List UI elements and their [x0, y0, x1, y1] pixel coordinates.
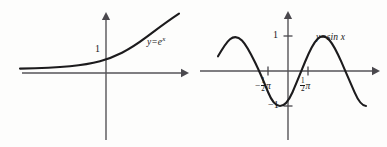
sine-curve-label: y=sin x	[316, 33, 345, 43]
sine-graph-svg	[194, 0, 387, 147]
sine-x-label-positive-half-pi: 12π	[300, 78, 310, 94]
exponential-curve-label: y=ex	[147, 36, 165, 48]
sine-x-label-negative-half-pi: −12π	[255, 78, 271, 94]
one-half-fraction: 12	[261, 78, 266, 94]
sine-curve-label-text: y=sin x	[316, 32, 345, 42]
exponential-curve-label-text: y=e	[147, 37, 162, 47]
exponential-y-tick-label: 1	[95, 44, 100, 54]
exponential-graph-svg	[0, 0, 194, 147]
one-half-fraction: 12	[300, 78, 305, 94]
pi-symbol: π	[306, 81, 311, 91]
textbook-figure-pair: 1 y=ex 1 −1 −12π 12π y=sin x	[0, 0, 387, 147]
arrow-up-icon	[284, 11, 292, 19]
pi-symbol: π	[266, 81, 271, 91]
sine-y-label-positive-one: 1	[273, 30, 278, 40]
arrow-up-icon	[102, 12, 110, 20]
fraction-denominator: 2	[300, 86, 305, 93]
arrow-right-icon	[372, 67, 380, 75]
arrow-right-icon	[181, 69, 189, 77]
fraction-denominator: 2	[261, 86, 266, 93]
negative-sign: −	[255, 81, 260, 91]
exponential-curve-label-exponent: x	[162, 35, 165, 43]
sine-y-label-negative-one: −1	[268, 100, 279, 110]
